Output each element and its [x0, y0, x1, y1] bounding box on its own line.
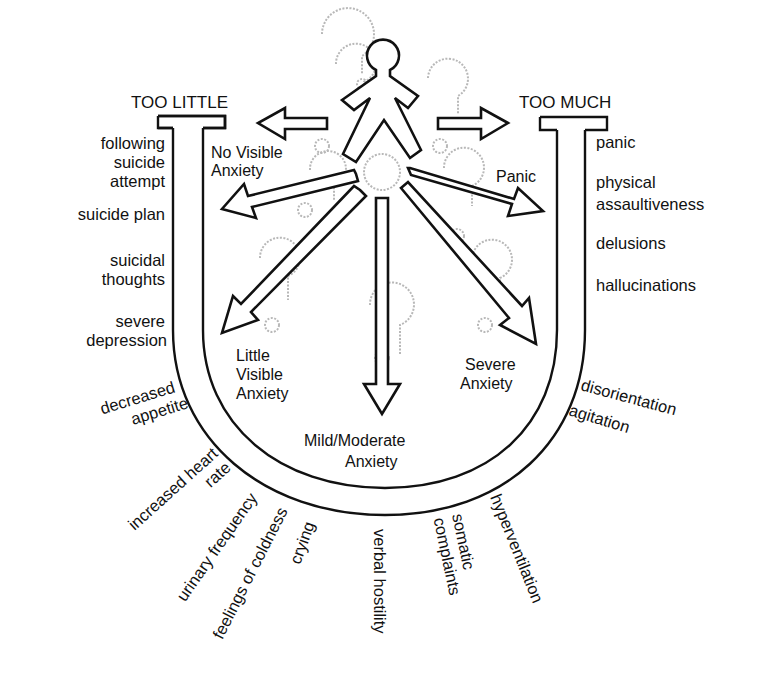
- too-little-symptoms: following suicide attempt suicide plan s…: [78, 134, 167, 349]
- symptom-severe-depression-1: severe: [115, 312, 165, 330]
- label-severe-2: Anxiety: [460, 375, 512, 392]
- symptom-hyperventilation: hyperventilation: [487, 491, 547, 605]
- too-little-heading: TOO LITTLE: [131, 93, 228, 112]
- bottom-symptoms: increased heart rate urinary frequency f…: [124, 444, 547, 642]
- label-no-visible-anxiety-1: No Visible: [211, 144, 283, 161]
- symptom-delusions: delusions: [596, 234, 666, 252]
- label-no-visible-anxiety-2: Anxiety: [211, 162, 263, 179]
- label-mild-moderate-1: Mild/Moderate: [304, 432, 405, 449]
- symptom-suicide-plan: suicide plan: [78, 205, 165, 223]
- symptom-crying: crying: [286, 519, 318, 567]
- arrow-mild-moderate-anxiety: [364, 198, 400, 414]
- person-icon: [342, 40, 421, 162]
- label-little-visible-2: Visible: [236, 366, 283, 383]
- label-little-visible-3: Anxiety: [236, 385, 288, 402]
- too-much-symptoms: panic physical assaultiveness delusions …: [596, 133, 704, 294]
- symptom-verbal-hostility: verbal hostility: [371, 529, 389, 634]
- symptom-following-suicide-attempt-1: following: [101, 134, 165, 152]
- symptom-decreased-appetite: decreased appetite: [98, 375, 190, 435]
- label-mild-moderate-2: Anxiety: [345, 453, 397, 470]
- label-little-visible-1: Little: [236, 347, 270, 364]
- symptom-physical-assaultiveness-2: assaultiveness: [596, 195, 704, 213]
- symptom-hallucinations: hallucinations: [596, 276, 696, 294]
- symptom-following-suicide-attempt-2: suicide: [114, 153, 165, 171]
- anxiety-continuum-diagram: TOO LITTLE TOO MUCH No Visible Anxiety P…: [0, 0, 771, 695]
- symptom-physical-assaultiveness-1: physical: [596, 173, 656, 191]
- label-severe-1: Severe: [465, 356, 516, 373]
- symptom-following-suicide-attempt-3: attempt: [110, 172, 165, 190]
- symptom-panic: panic: [596, 133, 635, 151]
- symptom-severe-depression-2: depression: [86, 331, 167, 349]
- symptom-suicidal-thoughts-1: suicidal: [110, 251, 165, 269]
- arrow-to-too-much: [438, 108, 508, 139]
- arrow-to-too-little: [258, 108, 327, 139]
- symptom-suicidal-thoughts-2: thoughts: [102, 270, 165, 288]
- symptom-agitation: agitation: [567, 401, 632, 436]
- too-much-heading: TOO MUCH: [519, 93, 611, 112]
- symptom-increased-heart-rate-1: increased heart: [124, 444, 221, 534]
- label-panic: Panic: [496, 168, 536, 185]
